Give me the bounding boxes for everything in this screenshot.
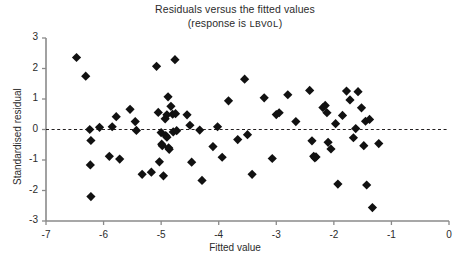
- data-point: [362, 180, 371, 189]
- data-point: [233, 135, 242, 144]
- x-axis-tick-label: -3: [261, 229, 291, 240]
- data-point: [125, 105, 134, 114]
- data-point: [248, 170, 257, 179]
- data-point: [187, 158, 196, 167]
- y-axis-tick-label: -2: [12, 184, 38, 195]
- data-point: [374, 139, 383, 148]
- x-axis-tick-label: -2: [319, 229, 349, 240]
- data-point: [132, 126, 141, 135]
- data-point: [163, 92, 172, 101]
- data-point: [170, 55, 179, 64]
- data-point: [185, 121, 194, 130]
- data-point: [307, 136, 316, 145]
- y-axis-tick-label: 2: [12, 62, 38, 73]
- data-point: [345, 95, 354, 104]
- data-point: [291, 117, 300, 126]
- x-axis-tick-label: -4: [204, 229, 234, 240]
- y-axis-tick-label: 0: [12, 123, 38, 134]
- data-point: [72, 53, 81, 62]
- data-point: [349, 133, 358, 142]
- data-point: [112, 112, 121, 121]
- data-point: [152, 62, 161, 71]
- data-point: [368, 203, 377, 212]
- data-point: [208, 142, 217, 151]
- data-point: [85, 125, 94, 134]
- x-axis-tick-label: 0: [434, 229, 464, 240]
- data-point: [305, 86, 314, 95]
- y-axis-tick-label: -3: [12, 214, 38, 225]
- data-point: [154, 108, 163, 117]
- data-point: [115, 154, 124, 163]
- data-point: [224, 96, 233, 105]
- data-point: [260, 93, 269, 102]
- data-point: [218, 153, 227, 162]
- data-point: [95, 123, 104, 132]
- data-point: [138, 170, 147, 179]
- x-axis-tick-label: -5: [146, 229, 176, 240]
- data-point: [338, 111, 347, 120]
- data-point: [268, 154, 277, 163]
- data-point: [131, 117, 140, 126]
- data-point: [331, 119, 340, 128]
- data-point: [243, 130, 252, 139]
- data-point: [333, 179, 342, 188]
- data-point: [195, 126, 204, 135]
- data-point: [283, 90, 292, 99]
- data-point: [182, 110, 191, 119]
- residual-plot-figure: Residuals versus the fitted values (resp…: [0, 0, 470, 265]
- scatter-plot-canvas: [0, 0, 470, 265]
- data-point: [166, 102, 175, 111]
- data-point: [240, 75, 249, 84]
- data-point: [86, 136, 95, 145]
- data-point: [86, 160, 95, 169]
- data-point: [359, 141, 368, 150]
- data-point: [353, 87, 362, 96]
- data-point: [86, 192, 95, 201]
- data-point: [147, 168, 156, 177]
- data-point: [155, 157, 164, 166]
- data-point: [351, 124, 360, 133]
- data-point: [357, 103, 366, 112]
- x-axis-tick-label: -7: [31, 229, 61, 240]
- data-point: [197, 176, 206, 185]
- y-axis-tick-label: 1: [12, 92, 38, 103]
- data-point: [159, 171, 168, 180]
- y-axis-tick-label: 3: [12, 31, 38, 42]
- data-point: [342, 86, 351, 95]
- data-point: [81, 72, 90, 81]
- y-axis-tick-label: -1: [12, 153, 38, 164]
- x-axis-tick-label: -1: [376, 229, 406, 240]
- x-axis-tick-label: -6: [89, 229, 119, 240]
- data-point: [105, 152, 114, 161]
